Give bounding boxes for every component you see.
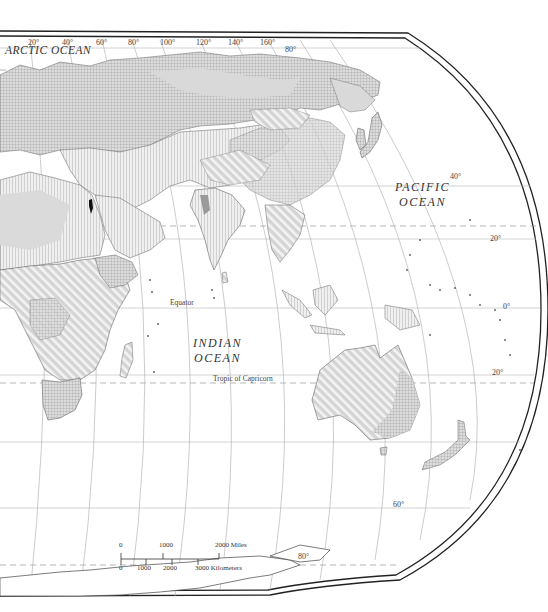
- land-india: [190, 188, 245, 270]
- land-new-zealand: [422, 420, 470, 470]
- lon-label-160: 160°: [260, 38, 275, 47]
- lon-label-40: 40°: [62, 38, 73, 47]
- lon-label-20: 20°: [28, 38, 39, 47]
- scale-bar: 0 1000 2000 Miles 0 1000 2000 3000 Kilom…: [117, 541, 277, 581]
- land-south-africa: [42, 378, 82, 420]
- map-canvas: [0, 0, 548, 612]
- scale-km-3000: 3000 Kilometers: [195, 564, 242, 572]
- lat-label-80s: 80°: [298, 552, 309, 561]
- label-pacific-ocean: PACIFIC OCEAN: [395, 180, 450, 210]
- land-madagascar: [120, 342, 133, 378]
- lon-label-60: 60°: [96, 38, 107, 47]
- scale-miles-2000: 2000 Miles: [215, 541, 247, 549]
- label-indian-line1: INDIAN: [193, 336, 242, 351]
- label-equator: Equator: [170, 298, 194, 307]
- land-sri-lanka: [222, 272, 228, 283]
- land-indonesia: [282, 285, 420, 335]
- scale-miles-1000: 1000: [159, 541, 173, 549]
- lat-label-20n: 20°: [490, 234, 501, 243]
- lon-label-80: 80°: [128, 38, 139, 47]
- lat-label-80n: 80°: [285, 45, 296, 54]
- label-indian-ocean: INDIAN OCEAN: [193, 336, 242, 366]
- land-southeast-asia: [265, 205, 305, 262]
- label-tropic-capricorn: Tropic of Capricorn: [213, 374, 273, 383]
- scale-km-2000: 2000: [163, 564, 177, 572]
- scale-miles-0: 0: [119, 541, 123, 549]
- lon-label-100: 100°: [160, 38, 175, 47]
- lon-label-120: 120°: [196, 38, 211, 47]
- lat-label-60s: 60°: [393, 500, 404, 509]
- lat-label-0: 0°: [503, 302, 510, 311]
- label-pacific-line2: OCEAN: [395, 195, 450, 210]
- scale-km-1000: 1000: [137, 564, 151, 572]
- lat-label-40n: 40°: [450, 172, 461, 181]
- scale-km-0: 0: [119, 564, 123, 572]
- lon-label-140: 140°: [228, 38, 243, 47]
- land-arabia: [95, 195, 165, 258]
- label-indian-line2: OCEAN: [193, 351, 242, 366]
- label-arctic-ocean: ARCTIC OCEAN: [5, 43, 91, 58]
- land-tasmania: [380, 447, 387, 455]
- lat-label-20s: 20°: [492, 368, 503, 377]
- label-pacific-line1: PACIFIC: [395, 180, 450, 195]
